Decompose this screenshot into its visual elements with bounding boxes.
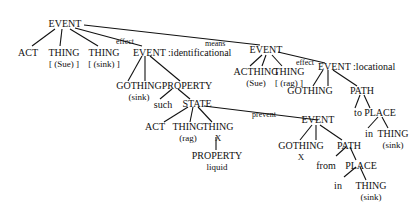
node-in-2: in bbox=[365, 129, 373, 139]
node-act-2: ACT bbox=[145, 122, 165, 132]
edge-label-effect-2: effect bbox=[296, 59, 314, 67]
node-gothing-2: GOTHING bbox=[287, 86, 333, 96]
edge-label-prevent: prevent bbox=[252, 111, 276, 119]
node-state: STATE bbox=[182, 99, 211, 109]
node-thing-x: THINGX bbox=[202, 122, 233, 143]
node-property: PROPERTY bbox=[162, 81, 213, 91]
node-thing-sue: THING[ (Sue) ] bbox=[48, 48, 79, 69]
node-in-1: in bbox=[334, 181, 342, 191]
node-event-locational: EVENT :locational bbox=[318, 62, 395, 72]
node-property-liquid: PROPERTYliquid bbox=[192, 151, 243, 172]
node-acthing-sue: ACTHING(Sue) bbox=[234, 67, 279, 88]
node-root-event: EVENT bbox=[49, 19, 82, 29]
node-path-from: PATH bbox=[337, 141, 361, 151]
edge-label-means: means bbox=[205, 40, 225, 48]
node-event-identificational: EVENT :identificational bbox=[133, 48, 231, 58]
node-thing-sink: THING[ (sink) ] bbox=[88, 48, 120, 69]
node-place-to: PLACE bbox=[364, 108, 396, 118]
node-event-prevent: EVENT bbox=[302, 115, 335, 125]
node-path-to: PATH bbox=[350, 86, 374, 96]
node-thing-sink-3: THING(sink) bbox=[377, 129, 408, 150]
node-thing-rag: THING(rag) bbox=[172, 122, 203, 143]
node-such: such bbox=[154, 100, 172, 110]
node-thing-sink-2: THING(sink) bbox=[355, 181, 386, 202]
node-event-means: EVENT bbox=[250, 45, 283, 55]
node-act: ACT bbox=[18, 48, 38, 58]
node-gothing-x: GOTHINGX bbox=[278, 141, 324, 162]
conceptual-structure-diagram: EVENT ACT THING[ (Sue) ] THING[ (sink) ]… bbox=[0, 0, 413, 211]
edge-label-effect-1: effect bbox=[116, 38, 134, 46]
node-to: to bbox=[354, 108, 362, 118]
node-from: from bbox=[316, 161, 335, 171]
node-place-from: PLACE bbox=[345, 161, 377, 171]
